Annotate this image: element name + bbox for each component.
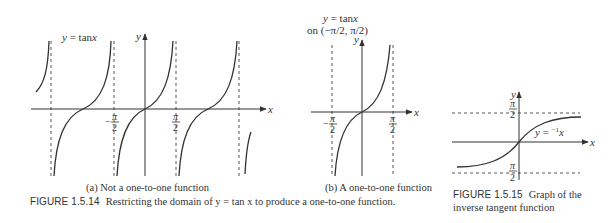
svg-text:2: 2 [330,124,335,135]
svg-text:π: π [112,111,118,122]
y-axis-label: y [135,30,141,42]
svg-text:π: π [390,113,396,124]
svg-text:−: − [105,116,111,127]
svg-text:π: π [173,111,179,122]
panel-b-caption: (b) A one-to-one function [325,181,432,194]
horizontal-asymptotes [452,113,580,173]
figure-1-5-15-caption: FIGURE 1.5.15Graph of the inverse tangen… [453,188,582,214]
tick-label-pi-over-2: π 2 [389,113,397,135]
x-axis-label: x [589,136,595,148]
svg-text:2: 2 [173,122,178,133]
svg-text:2: 2 [112,122,117,133]
figure-number: FIGURE 1.5.14 [30,196,100,207]
figure-caption-line1: Graph of the [529,189,582,200]
svg-text:2: 2 [510,172,515,183]
figure-caption-line2: inverse tangent function [453,201,582,214]
tick-label-neg-pi-over-2: − π 2 [323,113,337,135]
panel-a-caption: (a) Not a one-to-one function [86,181,209,194]
svg-text:−: − [323,118,329,129]
x-axis-label: x [413,106,419,118]
panel-a-graph: y = tanx y x − π 2 π 2 [31,30,273,176]
svg-text:2: 2 [390,124,395,135]
figure-caption-text: Restricting the domain of y = tan x to p… [106,196,396,207]
arctan-graph: y x y = −1x π 2 π 2 [452,88,595,183]
svg-text:π: π [510,160,516,171]
tick-label-neg-pi-over-2: − π 2 [105,111,119,133]
svg-text:2: 2 [510,109,515,120]
x-axis-label: x [267,103,273,115]
curve-label: y = tanx [61,31,97,43]
svg-text:π: π [330,113,336,124]
y-axis-label: y [353,33,359,45]
panel-b-title-line1: y = tanx [322,12,358,24]
panel-b-graph: y = tanx on (−π/2, π/2) y x − π 2 π 2 [307,12,419,176]
curve-label: y = −1x [534,126,564,138]
tick-label-pi-over-2: π 2 [509,98,517,120]
tick-label-neg-pi-over-2: π 2 [509,160,517,183]
figure-1-5-14-caption: FIGURE 1.5.14Restricting the domain of y… [30,195,395,208]
figure-number: FIGURE 1.5.15 [453,189,523,200]
tick-label-pi-over-2: π 2 [172,111,180,133]
panel-b-title-line2: on (−π/2, π/2) [307,24,368,37]
